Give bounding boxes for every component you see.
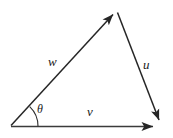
vector-u-line: [118, 13, 160, 121]
angle-label-theta: θ: [37, 103, 43, 115]
vector-label-u: u: [143, 58, 150, 71]
vector-label-v: v: [87, 105, 93, 118]
vector-label-w: w: [48, 55, 57, 68]
vector-w-line: [11, 15, 113, 126]
vector-triangle-figure: w u v θ: [0, 0, 173, 138]
